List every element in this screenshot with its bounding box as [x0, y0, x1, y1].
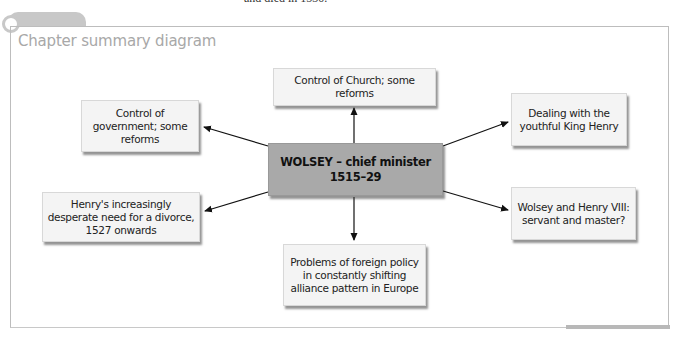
node-label: Henry's increasingly desperate need for … — [47, 198, 195, 237]
arrow-to-government — [204, 127, 268, 146]
center-title: WOLSEY – chief minister — [280, 155, 431, 170]
arrow-to-youthful-king — [443, 122, 508, 146]
arrow-to-divorce — [205, 192, 268, 211]
node-servant-master: Wolsey and Henry VIII: servant and maste… — [511, 187, 636, 240]
node-label: Control of government; some reforms — [86, 107, 194, 146]
node-foreign-policy: Problems of foreign policy in constantly… — [283, 244, 426, 306]
center-dates: 1515–29 — [330, 170, 382, 185]
node-label: Control of Church; some reforms — [278, 74, 431, 100]
node-divorce: Henry's increasingly desperate need for … — [42, 192, 200, 242]
node-label: Wolsey and Henry VIII: servant and maste… — [516, 201, 631, 227]
node-church: Control of Church; some reforms — [273, 68, 436, 106]
node-label: Dealing with the youthful King Henry — [516, 107, 622, 133]
node-government: Control of government; some reforms — [81, 100, 199, 152]
center-node-wolsey: WOLSEY – chief minister 1515–29 — [268, 143, 443, 196]
node-label: Problems of foreign policy in constantly… — [288, 256, 421, 295]
node-youthful-king: Dealing with the youthful King Henry — [511, 93, 627, 146]
arrow-to-servant-master — [443, 191, 508, 210]
